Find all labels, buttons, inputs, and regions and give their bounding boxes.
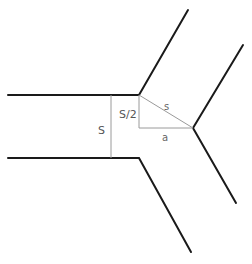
right-wall <box>193 45 243 203</box>
label-S-half: S/2 <box>119 108 137 121</box>
label-a: a <box>162 132 168 143</box>
label-s: s <box>164 101 169 112</box>
lower-wall <box>8 158 191 252</box>
channel-walls <box>8 10 243 252</box>
construction-lines <box>111 95 193 158</box>
junction-diagram: S S/2 s a <box>0 0 252 264</box>
label-S: S <box>98 124 105 137</box>
upper-wall <box>8 10 188 95</box>
